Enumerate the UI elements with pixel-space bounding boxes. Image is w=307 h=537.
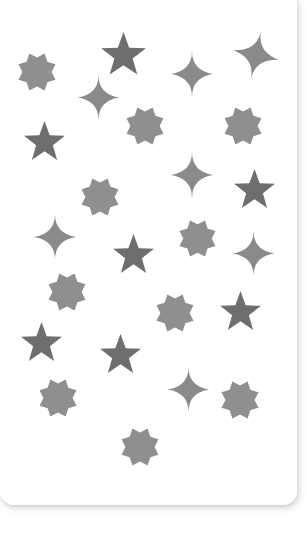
- five-point-star-icon: [233, 169, 276, 212]
- five-point-star-icon: [99, 334, 142, 377]
- eight-point-star-icon: [17, 52, 57, 92]
- screenshot-stage: [0, 0, 307, 537]
- five-point-star-icon: [112, 234, 155, 277]
- four-point-sparkle-icon: [226, 25, 285, 84]
- eight-point-star-icon: [178, 219, 217, 258]
- four-point-sparkle-icon: [231, 231, 276, 276]
- four-point-sparkle-icon: [32, 214, 78, 260]
- five-point-star-icon: [20, 322, 63, 365]
- eight-point-star-icon: [125, 106, 165, 146]
- eight-point-star-icon: [155, 293, 195, 333]
- eight-point-star-icon: [223, 106, 263, 146]
- eight-point-star-icon: [80, 177, 120, 217]
- star-pattern-card: [0, 0, 297, 505]
- four-point-sparkle-icon: [169, 152, 215, 198]
- card-surface: [0, 0, 297, 505]
- five-point-star-icon: [23, 121, 66, 164]
- four-point-sparkle-icon: [169, 51, 215, 97]
- four-point-sparkle-icon: [166, 367, 211, 412]
- eight-point-star-icon: [120, 427, 160, 467]
- five-point-star-icon: [219, 291, 262, 334]
- four-point-sparkle-icon: [76, 75, 121, 120]
- eight-point-star-icon: [220, 380, 260, 420]
- eight-point-star-icon: [47, 272, 87, 312]
- eight-point-star-icon: [38, 378, 78, 418]
- five-point-star-icon: [100, 32, 147, 79]
